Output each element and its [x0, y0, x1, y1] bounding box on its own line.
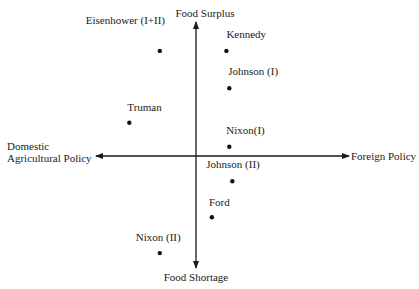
data-point-label: Nixon(I) [226, 124, 265, 137]
data-point-label: Johnson (II) [206, 158, 260, 171]
x-negative-label-line1: Domestic [7, 140, 49, 152]
data-point-label: Nixon (II) [136, 231, 181, 244]
data-point [158, 251, 162, 255]
data-point-label: Truman [127, 101, 162, 113]
x-negative-label-line2: Agricultural Policy [7, 152, 92, 164]
data-point [230, 179, 234, 183]
data-point-label: Ford [209, 196, 230, 208]
data-point [227, 145, 231, 149]
data-point [127, 121, 131, 125]
data-point-label: Kennedy [226, 28, 266, 40]
policy-quadrant-chart: Food Surplus Food Shortage Foreign Polic… [0, 0, 419, 289]
data-point-label: Eisenhower (I+II) [86, 14, 166, 27]
y-negative-label: Food Shortage [164, 271, 229, 283]
data-points: Eisenhower (I+II)KennedyJohnson (I)Truma… [86, 14, 279, 255]
data-point [210, 215, 214, 219]
y-positive-label: Food Surplus [176, 7, 235, 19]
x-positive-label: Foreign Policy [351, 150, 417, 162]
data-point [158, 49, 162, 53]
data-point-label: Johnson (I) [228, 65, 278, 78]
data-point [224, 49, 228, 53]
data-point [227, 86, 231, 90]
